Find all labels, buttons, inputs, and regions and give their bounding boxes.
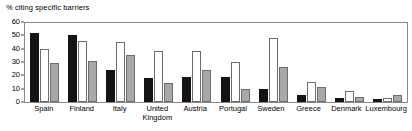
x-axis-label: Finland xyxy=(63,104,101,113)
bar xyxy=(164,83,173,102)
y-axis-tick-label: 0 xyxy=(16,98,20,106)
bar xyxy=(355,97,364,102)
bar xyxy=(202,70,211,102)
y-axis-tick-label: 10 xyxy=(12,85,20,93)
bar xyxy=(50,63,59,102)
bar xyxy=(182,77,191,102)
bar-group xyxy=(297,22,326,102)
bar xyxy=(192,51,201,102)
bar xyxy=(68,35,77,102)
bar-group xyxy=(182,22,211,102)
bar-group xyxy=(106,22,135,102)
bar xyxy=(317,87,326,102)
bar xyxy=(279,67,288,102)
bar xyxy=(393,95,402,102)
bars-container xyxy=(25,22,407,102)
bar xyxy=(154,51,163,102)
chart-title: % citing specific barriers xyxy=(6,3,89,12)
x-axis-label: Luxembourg xyxy=(365,104,407,113)
x-axis-label: Sweden xyxy=(252,104,290,113)
bar xyxy=(88,61,97,102)
bar xyxy=(221,77,230,102)
x-axis-label: Portugal xyxy=(214,104,252,113)
bar xyxy=(269,38,278,102)
bar xyxy=(383,98,392,102)
x-axis-label: Greece xyxy=(290,104,328,113)
y-axis-tick-label: 30 xyxy=(12,58,20,66)
x-axis-label: United Kingdom xyxy=(138,104,176,122)
bar xyxy=(335,98,344,102)
bar-group xyxy=(335,22,364,102)
bar xyxy=(241,89,250,102)
bar xyxy=(144,78,153,102)
bar xyxy=(345,91,354,102)
bar-group xyxy=(68,22,97,102)
bar xyxy=(30,33,39,102)
x-axis-label: Spain xyxy=(25,104,63,113)
bar-group xyxy=(259,22,288,102)
bar xyxy=(259,89,268,102)
bar-group xyxy=(221,22,250,102)
x-axis-labels: SpainFinlandItalyUnited KingdomAustriaPo… xyxy=(25,104,407,130)
bar xyxy=(106,70,115,102)
x-axis-label: Austria xyxy=(176,104,214,113)
bar xyxy=(126,55,135,102)
bar xyxy=(78,41,87,102)
bar-group xyxy=(144,22,173,102)
bar-group xyxy=(30,22,59,102)
bar-chart: % citing specific barriers 0102030405060… xyxy=(0,0,412,131)
y-axis-tick-label: 20 xyxy=(12,71,20,79)
bar xyxy=(373,99,382,102)
bar xyxy=(40,49,49,102)
bar xyxy=(116,42,125,102)
y-axis-tick-label: 40 xyxy=(12,45,20,53)
x-axis-label: Italy xyxy=(101,104,139,113)
bar xyxy=(297,95,306,102)
bar xyxy=(231,62,240,102)
y-axis: 0102030405060 xyxy=(0,22,24,103)
y-axis-tick-label: 60 xyxy=(12,18,20,26)
bar xyxy=(307,82,316,102)
y-axis-tick-label: 50 xyxy=(12,31,20,39)
x-axis-label: Denmark xyxy=(328,104,366,113)
bar-group xyxy=(373,22,402,102)
